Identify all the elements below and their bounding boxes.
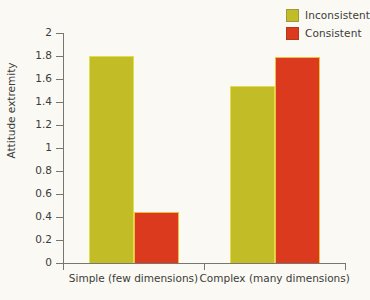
y-axis-tick xyxy=(56,33,63,34)
bar-inconsistent-complex xyxy=(230,86,275,263)
bar-inconsistent-simple xyxy=(89,56,134,263)
y-axis-tick xyxy=(56,148,63,149)
y-axis-tick xyxy=(56,102,63,103)
y-axis-tick-label: 1.4 xyxy=(0,96,52,107)
legend-label-inconsistent: Inconsistent xyxy=(305,10,370,21)
y-axis-tick xyxy=(56,263,63,264)
y-axis-tick xyxy=(56,194,63,195)
y-axis-tick-label: 0.8 xyxy=(0,165,52,176)
y-axis-tick xyxy=(56,240,63,241)
y-axis-tick xyxy=(56,125,63,126)
x-axis-category-label: Simple (few dimensions) xyxy=(59,272,209,284)
legend-item-inconsistent: Inconsistent xyxy=(286,9,370,22)
y-axis-tick xyxy=(56,217,63,218)
bar-consistent-complex xyxy=(275,57,320,263)
y-axis-tick-label: 0.2 xyxy=(0,234,52,245)
x-axis-tick xyxy=(63,263,64,270)
y-axis-tick-label: 1.2 xyxy=(0,119,52,130)
y-axis-tick xyxy=(56,171,63,172)
y-axis-tick-label: 1.6 xyxy=(0,73,52,84)
x-axis-tick xyxy=(204,263,205,270)
x-axis-tick xyxy=(345,263,346,270)
y-axis-tick xyxy=(56,56,63,57)
y-axis-tick-label: 0.4 xyxy=(0,211,52,222)
legend-swatch-inconsistent-icon xyxy=(286,9,299,22)
y-axis-tick-label: 1 xyxy=(0,142,52,153)
bar-consistent-simple xyxy=(134,212,179,263)
y-axis-tick-label: 0.6 xyxy=(0,188,52,199)
y-axis-tick-label: 0 xyxy=(0,257,52,268)
x-axis-category-label: Complex (many dimensions) xyxy=(200,272,350,284)
y-axis-tick-label: 2 xyxy=(0,27,52,38)
plot-area xyxy=(63,33,345,263)
y-axis-tick-label: 1.8 xyxy=(0,50,52,61)
y-axis-tick xyxy=(56,79,63,80)
